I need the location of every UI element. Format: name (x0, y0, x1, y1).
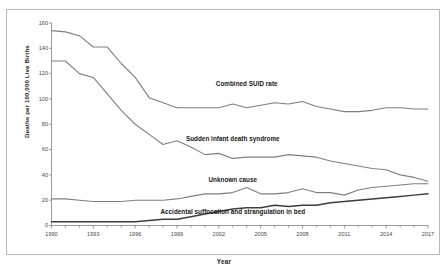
series-label-combined: Combined SUID rate (216, 80, 278, 87)
series-line (52, 31, 429, 112)
series-label-suffocation: Accidental suffocation and strangulation… (160, 208, 305, 215)
series-label-unknown: Unknown cause (208, 176, 257, 183)
axis-lines (52, 23, 429, 226)
chart-figure: Deaths per 100,000 Live Births Year 0204… (0, 0, 448, 273)
series-label-sids: Sudden infant death syndrome (186, 135, 280, 142)
data-series-layer (52, 31, 429, 222)
